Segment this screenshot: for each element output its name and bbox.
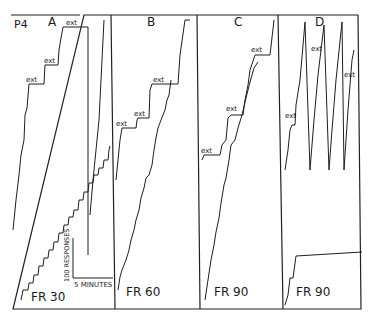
subject-label: P4 [14,18,28,31]
ext-label: ext [26,76,37,84]
panel-label-b: B [147,15,155,29]
ext-label: ext [311,45,322,53]
ext-label: ext [66,19,77,27]
scale-y-label: 100 RESPONSES [63,229,71,282]
ext-label: ext [153,76,164,84]
ext-label: ext [285,112,296,120]
scale-x-label: 5 MINUTES [74,281,113,289]
schedule-label-c: FR 90 [214,285,248,299]
schedule-label-a: FR 30 [31,290,65,304]
ext-label: ext [226,105,237,113]
panel-b-records: ext ext ext [116,20,190,290]
panel-label-d: D [315,15,324,29]
ext-label: ext [201,147,212,155]
ext-label: ext [44,57,55,65]
ext-label: ext [251,46,262,54]
schedule-label-d: FR 90 [296,285,330,299]
ext-label: ext [116,120,127,128]
ext-label: ext [344,71,355,79]
panel-label-c: C [234,15,242,29]
panel-label-a: A [48,15,57,29]
ext-label: ext [134,110,145,118]
cumulative-records-figure: P4 A B C D FR 30 FR 60 FR 90 FR 90 ext e… [0,0,373,322]
schedule-label-b: FR 60 [126,285,160,299]
panel-c-records: ext ext ext [201,20,274,300]
panel-a-records: ext ext ext [13,19,110,300]
panel-d-records: ext ext ext [285,22,362,305]
